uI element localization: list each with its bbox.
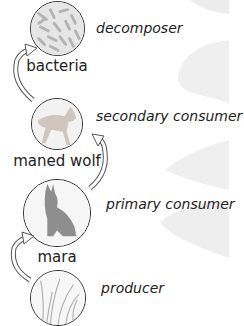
arrow-producer-to-mara bbox=[4, 230, 38, 286]
maned-wolf-circle bbox=[31, 98, 83, 150]
role-label-producer: producer bbox=[101, 280, 164, 296]
grass-icon bbox=[31, 271, 85, 325]
arrow-wolf-to-bacteria bbox=[5, 42, 45, 104]
role-label-primary-consumer: primary consumer bbox=[106, 196, 235, 212]
role-label-secondary-consumer: secondary consumer bbox=[96, 108, 242, 124]
arrow-mara-to-wolf bbox=[86, 132, 116, 194]
maned-wolf-icon bbox=[32, 99, 82, 149]
producer-circle bbox=[30, 270, 86, 326]
role-label-decomposer: decomposer bbox=[96, 20, 183, 36]
